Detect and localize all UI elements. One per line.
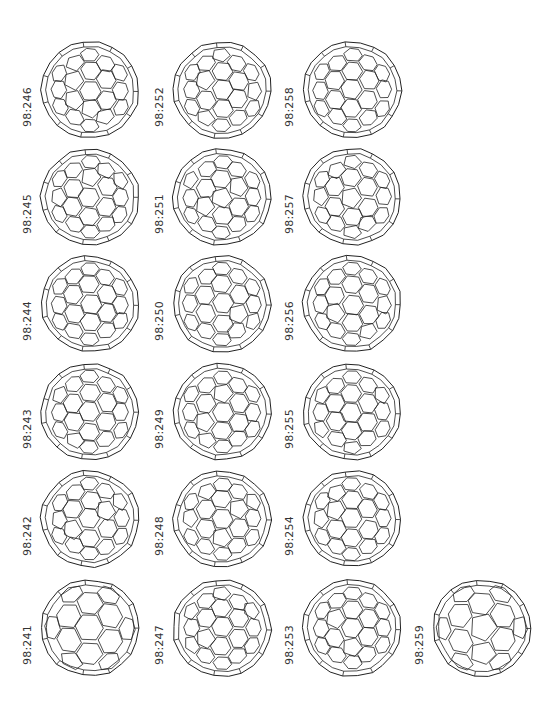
isomer-cell-98-246: 98:246 bbox=[20, 38, 150, 146]
isomer-label: 98:259 bbox=[412, 576, 426, 684]
fullerene-cage-icon bbox=[170, 467, 274, 571]
isomer-cell-98-255: 98:255 bbox=[282, 360, 412, 468]
isomer-label-text: 98:247 bbox=[153, 625, 166, 665]
isomer-label-text: 98:257 bbox=[283, 194, 296, 234]
fullerene-cage-icon bbox=[170, 576, 274, 680]
isomer-label-text: 98:253 bbox=[283, 625, 296, 665]
isomer-label: 98:243 bbox=[20, 360, 34, 468]
fullerene-cage-icon bbox=[38, 145, 142, 249]
isomer-label: 98:242 bbox=[20, 467, 34, 575]
isomer-label-text: 98:256 bbox=[283, 301, 296, 341]
fullerene-cage-icon bbox=[300, 576, 404, 680]
isomer-label-text: 98:249 bbox=[153, 409, 166, 449]
isomer-cell-98-245: 98:245 bbox=[20, 145, 150, 253]
isomer-cell-98-242: 98:242 bbox=[20, 467, 150, 575]
fullerene-cage-icon bbox=[300, 360, 404, 464]
fullerene-cage-icon bbox=[38, 360, 142, 464]
isomer-label-text: 98:245 bbox=[21, 194, 34, 234]
isomer-label-text: 98:252 bbox=[153, 87, 166, 127]
fullerene-cage-icon bbox=[170, 252, 274, 356]
isomer-cell-98-249: 98:249 bbox=[152, 360, 282, 468]
isomer-label: 98:244 bbox=[20, 252, 34, 360]
isomer-cell-98-254: 98:254 bbox=[282, 467, 412, 575]
fullerene-cage-icon bbox=[38, 252, 142, 356]
fullerene-cage-icon bbox=[430, 576, 534, 680]
fullerene-cage-icon bbox=[38, 467, 142, 571]
isomer-cell-98-241: 98:241 bbox=[20, 576, 150, 684]
fullerene-cage-icon bbox=[38, 38, 142, 142]
isomer-cell-98-251: 98:251 bbox=[152, 145, 282, 253]
isomer-label: 98:256 bbox=[282, 252, 296, 360]
isomer-label-text: 98:243 bbox=[21, 409, 34, 449]
isomer-cell-98-259: 98:259 bbox=[412, 576, 542, 684]
isomer-cell-98-257: 98:257 bbox=[282, 145, 412, 253]
isomer-label-text: 98:242 bbox=[21, 516, 34, 556]
isomer-label-text: 98:241 bbox=[21, 625, 34, 665]
fullerene-cage-icon bbox=[300, 467, 404, 571]
fullerene-cage-icon bbox=[170, 38, 274, 142]
isomer-cell-98-247: 98:247 bbox=[152, 576, 282, 684]
isomer-label: 98:241 bbox=[20, 576, 34, 684]
isomer-cell-98-256: 98:256 bbox=[282, 252, 412, 360]
isomer-label: 98:258 bbox=[282, 38, 296, 146]
fullerene-cage-icon bbox=[300, 38, 404, 142]
isomer-cell-98-250: 98:250 bbox=[152, 252, 282, 360]
isomer-cell-98-252: 98:252 bbox=[152, 38, 282, 146]
isomer-label: 98:251 bbox=[152, 145, 166, 253]
isomer-label: 98:254 bbox=[282, 467, 296, 575]
isomer-cell-98-248: 98:248 bbox=[152, 467, 282, 575]
fullerene-cage-icon bbox=[170, 360, 274, 464]
fullerene-cage-icon bbox=[300, 145, 404, 249]
fullerene-cage-icon bbox=[38, 576, 142, 680]
isomer-label: 98:246 bbox=[20, 38, 34, 146]
isomer-label: 98:252 bbox=[152, 38, 166, 146]
isomer-label: 98:257 bbox=[282, 145, 296, 253]
isomer-cell-98-243: 98:243 bbox=[20, 360, 150, 468]
isomer-label: 98:247 bbox=[152, 576, 166, 684]
isomer-label-text: 98:255 bbox=[283, 409, 296, 449]
fullerene-cage-icon bbox=[170, 145, 274, 249]
isomer-label-text: 98:244 bbox=[21, 301, 34, 341]
isomer-label-text: 98:251 bbox=[153, 194, 166, 234]
isomer-label-text: 98:254 bbox=[283, 516, 296, 556]
isomer-label-text: 98:246 bbox=[21, 87, 34, 127]
isomer-label: 98:255 bbox=[282, 360, 296, 468]
isomer-label-text: 98:250 bbox=[153, 301, 166, 341]
isomer-cell-98-244: 98:244 bbox=[20, 252, 150, 360]
isomer-label: 98:253 bbox=[282, 576, 296, 684]
isomer-cell-98-253: 98:253 bbox=[282, 576, 412, 684]
isomer-label: 98:249 bbox=[152, 360, 166, 468]
fullerene-cage-icon bbox=[300, 252, 404, 356]
isomer-label-text: 98:248 bbox=[153, 516, 166, 556]
isomer-label-text: 98:258 bbox=[283, 87, 296, 127]
isomer-label: 98:245 bbox=[20, 145, 34, 253]
isomer-cell-98-258: 98:258 bbox=[282, 38, 412, 146]
isomer-label: 98:248 bbox=[152, 467, 166, 575]
isomer-label-text: 98:259 bbox=[413, 625, 426, 665]
isomer-label: 98:250 bbox=[152, 252, 166, 360]
